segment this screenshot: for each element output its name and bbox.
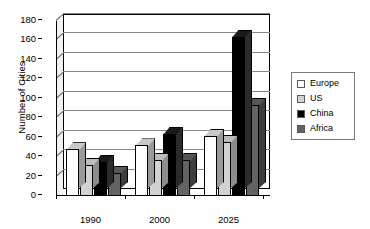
bar-europe-2025	[204, 136, 217, 196]
y-tick-label: 120	[2, 73, 36, 82]
bar-side-us	[230, 135, 238, 189]
legend-item-europe[interactable]: Europe	[297, 78, 350, 89]
x-tick-mark	[194, 195, 195, 199]
y-tick-mark	[38, 38, 42, 39]
y-axis-line	[56, 21, 57, 196]
chart-legend: EuropeUSChinaAfrica	[291, 72, 355, 140]
y-tick-label: 0	[2, 190, 36, 199]
y-tick-label: 140	[2, 54, 36, 63]
y-tick-label: 20	[2, 171, 36, 180]
y-tick-mark	[38, 116, 42, 117]
legend-swatch-us	[297, 95, 305, 103]
bar-side-china	[244, 30, 252, 189]
y-tick-label: 80	[2, 112, 36, 121]
y-tick-mark	[38, 194, 42, 195]
y-tick-label: 40	[2, 151, 36, 160]
legend-swatch-europe	[297, 80, 305, 88]
legend-swatch-africa	[297, 125, 305, 133]
legend-item-us[interactable]: US	[297, 93, 350, 104]
bar-side-china	[175, 127, 183, 189]
y-tick-label: 60	[2, 132, 36, 141]
y-tick-label: 160	[2, 34, 36, 43]
x-tick-mark	[263, 195, 264, 199]
y-tick-mark	[38, 175, 42, 176]
y-tick-mark	[38, 155, 42, 156]
y-tick-mark	[38, 136, 42, 137]
x-tick-label: 1990	[61, 214, 121, 225]
plot-area: 199020002025	[56, 14, 270, 196]
legend-label: US	[310, 94, 323, 103]
y-axis-ticks: 020406080100120140160180	[0, 0, 56, 229]
bar-europe-2000	[135, 145, 148, 196]
legend-swatch-china	[297, 110, 305, 118]
bar-chart: Number of Cities 02040608010012014016018…	[0, 0, 370, 229]
bar-europe-1990	[66, 149, 79, 196]
x-tick-label: 2000	[130, 214, 190, 225]
legend-item-china[interactable]: China	[297, 108, 350, 119]
legend-label: China	[310, 109, 334, 118]
y-tick-mark	[38, 77, 42, 78]
y-tick-label: 180	[2, 15, 36, 24]
bar-side-africa	[258, 98, 266, 189]
legend-label: Europe	[310, 79, 339, 88]
x-tick-label: 2025	[199, 214, 259, 225]
y-tick-mark	[38, 58, 42, 59]
bars-layer	[56, 14, 270, 196]
y-tick-label: 100	[2, 93, 36, 102]
bar-side-europe	[216, 129, 224, 189]
legend-item-africa[interactable]: Africa	[297, 123, 350, 134]
legend-label: Africa	[310, 124, 333, 133]
y-tick-mark	[38, 97, 42, 98]
x-tick-mark	[125, 195, 126, 199]
x-tick-mark	[56, 195, 57, 199]
x-axis-line	[56, 195, 270, 196]
y-tick-mark	[38, 19, 42, 20]
